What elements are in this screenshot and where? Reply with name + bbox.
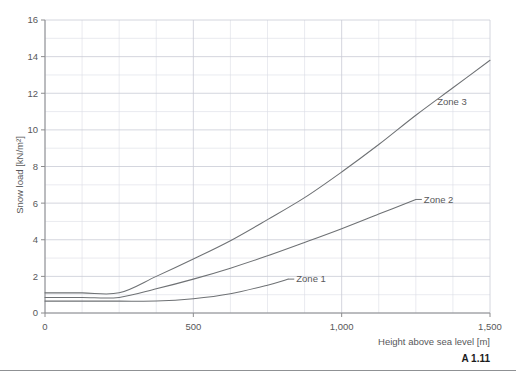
series-leader-lines [288,199,422,279]
x-tick-label: 0 [42,321,47,332]
y-tick-label: 12 [27,88,38,99]
y-tick-label: 6 [33,198,38,209]
x-tick-labels: 05001,0001,500 [42,321,502,332]
y-tick-label: 10 [27,124,38,135]
tick-marks [41,20,490,317]
x-axis-title: Height above sea level [m] [378,336,490,347]
series-label-zone-2: Zone 2 [424,194,454,205]
figure-container: 05001,0001,500 0246810121416 Zone 1Zone … [0,0,516,371]
snow-load-chart: 05001,0001,500 0246810121416 Zone 1Zone … [0,0,516,371]
series-label-zone-1: Zone 1 [296,273,326,284]
y-tick-label: 8 [33,161,38,172]
y-tick-label: 4 [33,234,38,245]
series-labels: Zone 1Zone 2Zone 3 [296,96,466,284]
y-tick-label: 16 [27,14,38,25]
series-label-zone-3: Zone 3 [437,96,467,107]
y-tick-label: 14 [27,51,38,62]
x-tick-label: 500 [185,321,201,332]
y-axis-title: Snow load [kN/m²] [14,136,25,214]
y-tick-label: 2 [33,271,38,282]
x-tick-label: 1,500 [478,321,502,332]
y-tick-labels: 0246810121416 [27,14,38,318]
figure-number: A 1.11 [461,353,490,364]
y-tick-label: 0 [33,307,38,318]
x-tick-label: 1,000 [330,321,354,332]
